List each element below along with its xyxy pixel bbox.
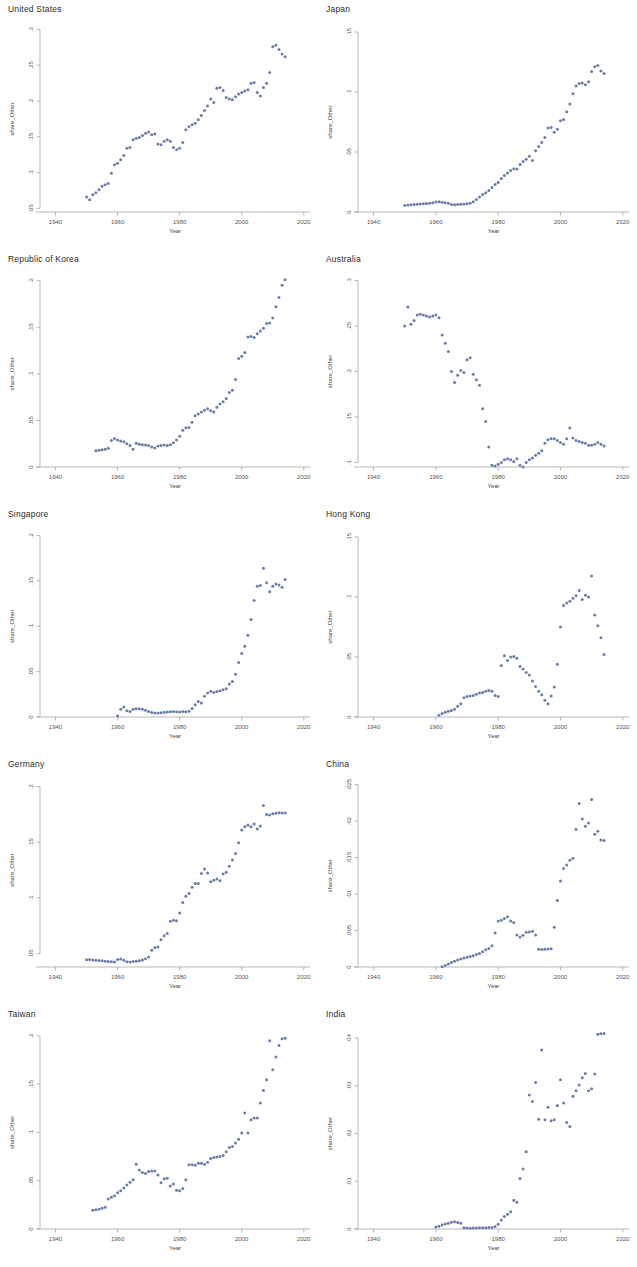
svg-text:.15: .15 xyxy=(28,322,34,331)
svg-text:.1: .1 xyxy=(346,594,352,600)
svg-text:2000: 2000 xyxy=(235,219,249,225)
svg-text:.15: .15 xyxy=(28,837,34,846)
svg-text:2020: 2020 xyxy=(616,1236,630,1242)
svg-text:0: 0 xyxy=(346,210,352,214)
svg-text:2000: 2000 xyxy=(235,474,249,480)
data-points xyxy=(403,64,605,207)
svg-text:0: 0 xyxy=(28,465,34,469)
svg-text:.05: .05 xyxy=(28,667,34,676)
svg-text:1980: 1980 xyxy=(491,724,505,730)
svg-text:1940: 1940 xyxy=(49,724,63,730)
svg-text:Year: Year xyxy=(169,228,181,234)
chart-panel-china: China0.005.01.015.02.025share_Other19401… xyxy=(318,755,637,1005)
svg-text:1940: 1940 xyxy=(49,974,63,980)
svg-text:2000: 2000 xyxy=(554,474,568,480)
chart-panel-germany: Germany.05.1.15.2share_Other194019601980… xyxy=(0,755,318,1005)
svg-text:.01: .01 xyxy=(346,889,352,898)
svg-text:.025: .025 xyxy=(346,778,352,790)
svg-text:2020: 2020 xyxy=(297,724,311,730)
svg-text:.3: .3 xyxy=(28,26,34,32)
svg-text:0: 0 xyxy=(346,1227,352,1231)
svg-text:.15: .15 xyxy=(28,132,34,141)
svg-text:.04: .04 xyxy=(346,1033,352,1042)
chart-panel-republic-of-korea: Republic of Korea0.05.1.15.2share_Other1… xyxy=(0,250,318,505)
svg-text:2000: 2000 xyxy=(554,1236,568,1242)
svg-text:.05: .05 xyxy=(346,652,352,661)
plot-area: .05.1.15.2.25.3share_Other19401960198020… xyxy=(0,0,318,250)
chart-panel-hong-kong: Hong Kong0.05.1.15share_Other19401960198… xyxy=(318,505,637,755)
svg-text:Year: Year xyxy=(169,733,181,739)
svg-text:.1: .1 xyxy=(28,371,34,377)
svg-text:share_Other: share_Other xyxy=(9,1116,15,1149)
svg-text:0: 0 xyxy=(346,965,352,969)
data-points xyxy=(116,567,287,717)
chart-panel-japan: Japan0.05.1.15share_Other194019601980200… xyxy=(318,0,637,250)
svg-text:Year: Year xyxy=(487,483,499,489)
svg-text:1940: 1940 xyxy=(367,219,381,225)
svg-text:.1: .1 xyxy=(28,169,34,175)
svg-text:1960: 1960 xyxy=(111,219,125,225)
svg-text:2000: 2000 xyxy=(235,974,249,980)
svg-text:2020: 2020 xyxy=(297,1236,311,1242)
svg-text:share_Other: share_Other xyxy=(327,610,333,643)
plot-area: 0.005.01.015.02.025share_Other1940196019… xyxy=(318,755,637,1005)
svg-text:1960: 1960 xyxy=(429,974,443,980)
svg-text:.015: .015 xyxy=(346,851,352,863)
svg-text:.2: .2 xyxy=(346,368,352,374)
svg-text:2000: 2000 xyxy=(554,974,568,980)
plot-area: 0.05.1.15.2share_Other194019601980200020… xyxy=(0,505,318,755)
svg-text:2000: 2000 xyxy=(554,219,568,225)
svg-text:1980: 1980 xyxy=(173,1236,187,1242)
svg-text:.02: .02 xyxy=(346,1129,352,1138)
svg-text:Year: Year xyxy=(169,983,181,989)
svg-text:1960: 1960 xyxy=(429,724,443,730)
svg-text:1960: 1960 xyxy=(111,724,125,730)
svg-text:.1: .1 xyxy=(28,895,34,901)
svg-text:0: 0 xyxy=(28,715,34,719)
svg-text:.2: .2 xyxy=(28,1033,34,1039)
data-points xyxy=(434,1032,605,1230)
svg-text:1940: 1940 xyxy=(367,724,381,730)
plot-area: 0.01.02.03.04share_Other1940196019802000… xyxy=(318,1005,637,1267)
chart-panel-united-states: United States.05.1.15.2.25.3share_Other1… xyxy=(0,0,318,250)
svg-text:.25: .25 xyxy=(28,61,34,70)
svg-text:.1: .1 xyxy=(28,623,34,629)
chart-grid: United States.05.1.15.2.25.3share_Other1… xyxy=(0,0,637,1267)
svg-text:.05: .05 xyxy=(346,147,352,156)
svg-text:.15: .15 xyxy=(346,27,352,36)
svg-text:.1: .1 xyxy=(346,89,352,95)
svg-text:1940: 1940 xyxy=(367,474,381,480)
svg-text:.05: .05 xyxy=(28,1176,34,1185)
svg-text:Year: Year xyxy=(487,983,499,989)
data-points xyxy=(85,44,287,202)
svg-text:1960: 1960 xyxy=(111,474,125,480)
data-points xyxy=(441,798,606,968)
chart-panel-taiwan: Taiwan0.05.1.15.2share_Other194019601980… xyxy=(0,1005,318,1267)
plot-area: .1.15.2.25.3share_Other19401960198020002… xyxy=(318,250,637,505)
data-points xyxy=(437,575,605,717)
svg-text:share_Other: share_Other xyxy=(327,105,333,138)
svg-text:1960: 1960 xyxy=(429,474,443,480)
svg-text:Year: Year xyxy=(487,733,499,739)
plot-area: 0.05.1.15share_Other19401960198020002020… xyxy=(318,505,637,755)
svg-text:.1: .1 xyxy=(346,459,352,465)
svg-text:1940: 1940 xyxy=(49,1236,63,1242)
svg-text:share_Other: share_Other xyxy=(9,357,15,390)
chart-panel-india: India0.01.02.03.04share_Other19401960198… xyxy=(318,1005,637,1267)
svg-text:.2: .2 xyxy=(28,98,34,104)
svg-text:2000: 2000 xyxy=(554,724,568,730)
data-points xyxy=(94,278,286,452)
svg-text:1940: 1940 xyxy=(367,1236,381,1242)
svg-text:.3: .3 xyxy=(346,277,352,283)
svg-text:share_Other: share_Other xyxy=(9,853,15,886)
plot-area: 0.05.1.15.2share_Other194019601980200020… xyxy=(0,250,318,505)
svg-text:2000: 2000 xyxy=(235,1236,249,1242)
svg-text:2020: 2020 xyxy=(297,474,311,480)
svg-text:Year: Year xyxy=(169,483,181,489)
data-points xyxy=(91,1037,286,1212)
svg-text:1960: 1960 xyxy=(111,1236,125,1242)
svg-text:.2: .2 xyxy=(28,532,34,538)
svg-text:.03: .03 xyxy=(346,1081,352,1090)
svg-text:2020: 2020 xyxy=(616,219,630,225)
svg-text:1960: 1960 xyxy=(429,1236,443,1242)
